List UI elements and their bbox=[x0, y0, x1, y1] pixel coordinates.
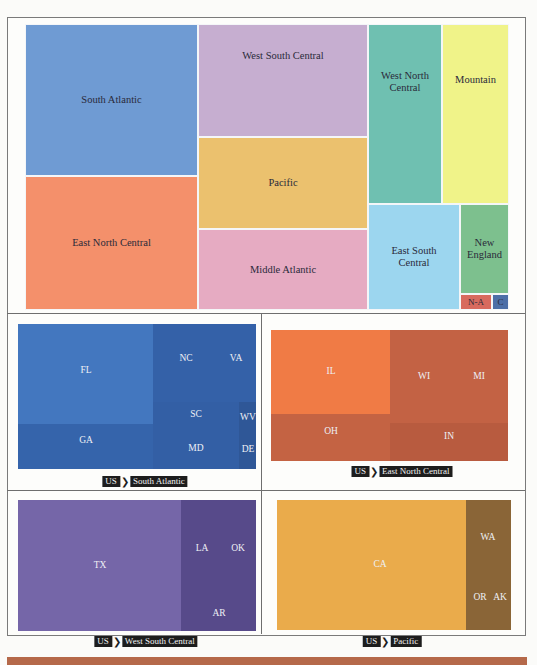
label-de: DE bbox=[242, 444, 255, 454]
cell-wi-mi[interactable] bbox=[390, 330, 508, 423]
cell-in[interactable] bbox=[390, 423, 508, 461]
panel-west-south-central: TX LA OK AR bbox=[18, 500, 256, 631]
cell-mountain[interactable]: Mountain bbox=[442, 24, 509, 204]
label-wa: WA bbox=[481, 532, 496, 542]
breadcrumb-south-atlantic[interactable]: US ❯ South Atlantic bbox=[102, 476, 187, 487]
breadcrumb-leaf: East North Central bbox=[379, 466, 452, 477]
label-mi: MI bbox=[473, 371, 485, 381]
cell-label: Mountain bbox=[455, 74, 496, 86]
cell-label: West South Central bbox=[242, 50, 323, 62]
cell-ca[interactable] bbox=[277, 500, 466, 630]
chevron-right-icon: ❯ bbox=[369, 466, 379, 477]
label-ok: OK bbox=[231, 543, 245, 553]
cell-oh[interactable] bbox=[271, 414, 390, 461]
label-sc: SC bbox=[190, 409, 202, 419]
cell-wa-or-ak[interactable] bbox=[466, 500, 511, 630]
panel-south-atlantic: FL GA NC VA SC MD WV DE bbox=[18, 324, 256, 469]
breadcrumb-leaf: South Atlantic bbox=[130, 476, 188, 487]
divider-horizontal-2 bbox=[7, 490, 525, 491]
label-fl: FL bbox=[80, 365, 91, 375]
cell-new-england[interactable]: New England bbox=[460, 204, 509, 294]
breadcrumb-root[interactable]: US bbox=[102, 476, 120, 487]
chevron-right-icon: ❯ bbox=[112, 636, 122, 647]
cell-c[interactable]: C bbox=[492, 294, 509, 310]
label-wv: WV bbox=[240, 412, 256, 422]
cell-label: Pacific bbox=[268, 177, 297, 189]
label-ga: GA bbox=[79, 435, 93, 445]
label-la: LA bbox=[196, 543, 209, 553]
cell-east-south-central[interactable]: East South Central bbox=[368, 204, 460, 310]
label-ak: AK bbox=[493, 592, 507, 602]
label-in: IN bbox=[444, 431, 454, 441]
breadcrumb-east-north-central[interactable]: US ❯ East North Central bbox=[352, 466, 453, 477]
label-oh: OH bbox=[324, 426, 338, 436]
breadcrumb-root[interactable]: US bbox=[363, 636, 381, 647]
cell-n-a[interactable]: N-A bbox=[460, 294, 492, 310]
chevron-right-icon: ❯ bbox=[380, 636, 390, 647]
cell-label: West North Central bbox=[369, 70, 441, 94]
cell-east-north-central[interactable]: East North Central bbox=[25, 176, 198, 310]
cell-label: South Atlantic bbox=[81, 94, 141, 106]
cell-west-south-central[interactable]: West South Central bbox=[198, 24, 368, 137]
breadcrumb-leaf: Pacific bbox=[390, 636, 421, 647]
breadcrumb-root[interactable]: US bbox=[94, 636, 112, 647]
cell-label: Middle Atlantic bbox=[250, 264, 316, 276]
cell-label: East North Central bbox=[72, 237, 151, 249]
breadcrumb-pacific[interactable]: US ❯ Pacific bbox=[363, 636, 422, 647]
breadcrumb-root[interactable]: US bbox=[352, 466, 370, 477]
label-wi: WI bbox=[418, 371, 430, 381]
divider-horizontal-1 bbox=[7, 313, 525, 314]
divider-vertical bbox=[261, 313, 262, 634]
label-nc: NC bbox=[179, 353, 192, 363]
cell-middle-atlantic[interactable]: Middle Atlantic bbox=[198, 229, 368, 310]
label-il: IL bbox=[327, 366, 336, 376]
cell-label: N-A bbox=[468, 296, 484, 308]
label-md: MD bbox=[188, 443, 203, 453]
label-va: VA bbox=[230, 353, 243, 363]
panel-east-north-central: IL OH WI MI IN bbox=[271, 330, 508, 461]
label-tx: TX bbox=[94, 560, 107, 570]
label-or: OR bbox=[473, 592, 486, 602]
label-ca: CA bbox=[373, 559, 386, 569]
chevron-right-icon: ❯ bbox=[120, 476, 130, 487]
cell-label: New England bbox=[461, 237, 508, 261]
page-bottom-band bbox=[7, 657, 527, 665]
cell-label: East South Central bbox=[369, 245, 459, 269]
cell-label: C bbox=[497, 296, 503, 308]
panel-pacific: CA WA OR AK bbox=[277, 500, 511, 630]
cell-west-north-central[interactable]: West North Central bbox=[368, 24, 442, 204]
cell-nc-va[interactable] bbox=[153, 324, 256, 402]
breadcrumb-leaf: West South Central bbox=[122, 636, 198, 647]
breadcrumb-west-south-central[interactable]: US ❯ West South Central bbox=[94, 636, 197, 647]
cell-south-atlantic[interactable]: South Atlantic bbox=[25, 24, 198, 176]
label-ar: AR bbox=[212, 608, 225, 618]
cell-pacific[interactable]: Pacific bbox=[198, 137, 368, 229]
cell-ga[interactable] bbox=[18, 424, 153, 469]
top-treemap: South Atlantic East North Central West S… bbox=[25, 24, 509, 310]
